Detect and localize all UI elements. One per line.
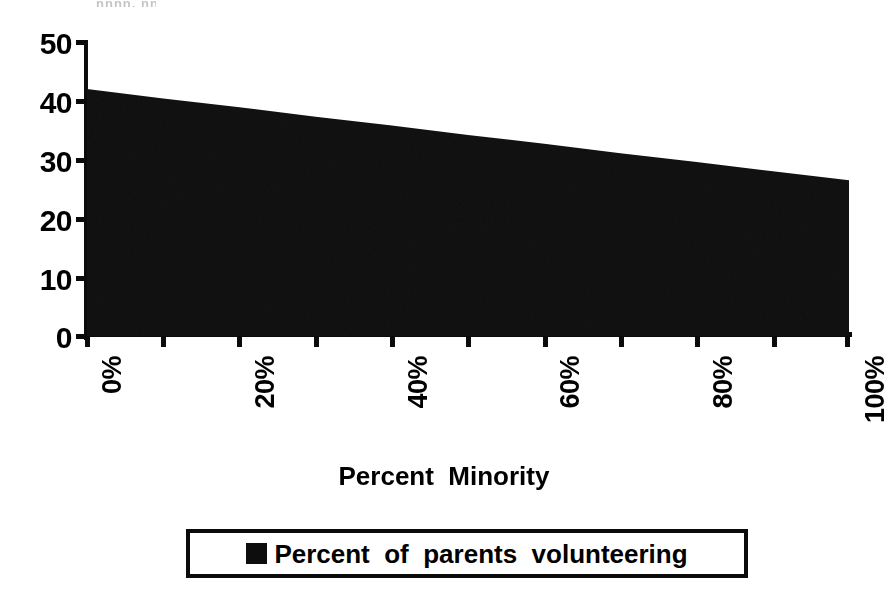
area-series-percent-of-parents-volunteering: [87, 42, 849, 336]
x-tick-40: [390, 336, 395, 347]
x-tick-20: [237, 336, 242, 347]
y-tick-label-40: 40: [0, 88, 72, 118]
y-tick-20: [76, 217, 87, 222]
x-tick-label-0: 0%: [99, 356, 126, 394]
y-tick-label-10: 10: [0, 265, 72, 295]
legend-swatch-icon: [246, 543, 267, 564]
legend-item-label: Percent of parents volunteering: [274, 541, 687, 567]
plot-area: [87, 42, 849, 336]
x-tick-50: [466, 336, 471, 347]
y-tick-label-30: 30: [0, 147, 72, 177]
y-tick-label-20: 20: [0, 206, 72, 236]
y-tick-50: [76, 40, 87, 45]
x-tick-90: [772, 336, 777, 347]
y-tick-30: [76, 158, 87, 163]
x-tick-label-40: 40%: [405, 356, 432, 409]
y-tick-label-50: 50: [0, 29, 72, 59]
area-chart: 50 40 30 20 10 0 0% 20% 40% 60% 80% 100%: [0, 0, 888, 599]
x-tick-label-100: 100%: [862, 356, 888, 423]
y-tick-label-0: 0: [0, 323, 72, 353]
x-tick-label-80: 80%: [710, 356, 737, 409]
y-tick-40: [76, 99, 87, 104]
x-tick-100: [845, 336, 850, 347]
x-tick-70: [619, 336, 624, 347]
x-tick-0: [85, 336, 90, 347]
x-tick-label-20: 20%: [252, 356, 279, 409]
x-tick-80: [695, 336, 700, 347]
x-tick-10: [161, 336, 166, 347]
x-tick-label-60: 60%: [557, 356, 584, 409]
x-tick-60: [543, 336, 548, 347]
legend: Percent of parents volunteering: [186, 529, 748, 578]
legend-item: Percent of parents volunteering: [246, 541, 687, 567]
x-tick-30: [314, 336, 319, 347]
x-axis-title: Percent Minority: [0, 461, 888, 492]
y-tick-10: [76, 276, 87, 281]
